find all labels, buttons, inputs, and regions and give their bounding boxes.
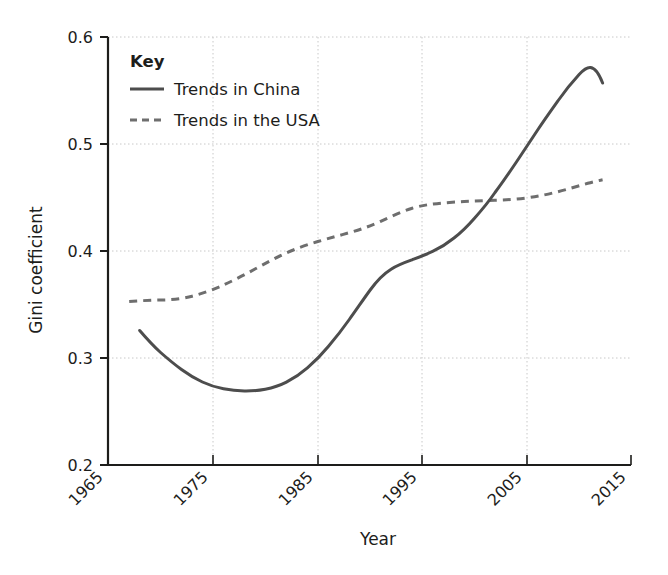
xtick-label-1985: 1985 bbox=[275, 467, 317, 509]
xtick-label-2005: 2005 bbox=[484, 467, 526, 509]
y-axis-tick-labels: 0.6 0.5 0.4 0.3 0.2 bbox=[68, 28, 93, 475]
chart-svg: 0.6 0.5 0.4 0.3 0.2 1965 1975 1985 1995 … bbox=[0, 0, 668, 575]
legend-label-china: Trends in China bbox=[173, 80, 300, 99]
ytick-label-0.4: 0.4 bbox=[68, 242, 93, 261]
gini-coefficient-line-chart: 0.6 0.5 0.4 0.3 0.2 1965 1975 1985 1995 … bbox=[0, 0, 668, 575]
legend-title: Key bbox=[130, 52, 165, 71]
legend-label-usa: Trends in the USA bbox=[173, 111, 320, 130]
xtick-label-1975: 1975 bbox=[170, 467, 212, 509]
x-axis-tick-labels: 1965 1975 1985 1995 2005 2015 bbox=[65, 467, 630, 509]
series-trends-in-the-usa bbox=[129, 180, 602, 302]
ytick-label-0.5: 0.5 bbox=[68, 135, 93, 154]
y-axis-ticks bbox=[100, 37, 108, 465]
ytick-label-0.6: 0.6 bbox=[68, 28, 93, 47]
legend-item-china: Trends in China bbox=[130, 80, 300, 99]
x-axis-ticks bbox=[108, 455, 631, 465]
usa-trend-line bbox=[129, 180, 602, 302]
legend-item-usa: Trends in the USA bbox=[130, 111, 320, 130]
xtick-label-2015: 2015 bbox=[588, 467, 630, 509]
y-axis-title: Gini coefficient bbox=[26, 206, 46, 334]
x-axis-title: Year bbox=[359, 529, 396, 549]
xtick-label-1995: 1995 bbox=[379, 467, 421, 509]
ytick-label-0.3: 0.3 bbox=[68, 349, 93, 368]
legend: Key Trends in China Trends in the USA bbox=[130, 52, 320, 130]
grid-lines bbox=[108, 37, 631, 465]
